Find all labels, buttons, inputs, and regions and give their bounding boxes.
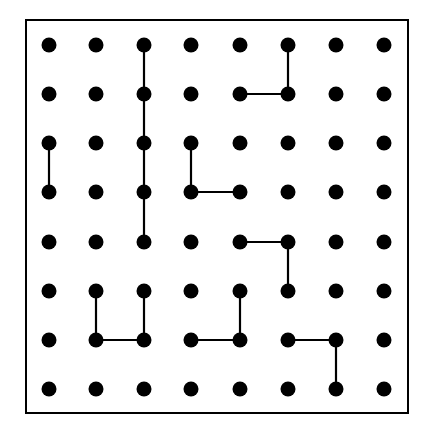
grid-dot-r0-c5 bbox=[281, 38, 296, 53]
grid-dot-r0-c1 bbox=[89, 38, 104, 53]
grid-dot-r7-c2 bbox=[137, 382, 152, 397]
grid-border bbox=[26, 20, 408, 413]
grid-dot-r0-c2 bbox=[137, 38, 152, 53]
grid-dot-r7-c4 bbox=[233, 382, 248, 397]
dot-grid-board bbox=[0, 0, 427, 433]
grid-dot-r5-c1 bbox=[89, 284, 104, 299]
grid-dot-r4-c2 bbox=[137, 235, 152, 250]
grid-dot-r1-c5 bbox=[281, 87, 296, 102]
grid-dot-r5-c0 bbox=[42, 284, 57, 299]
grid-dot-r6-c1 bbox=[89, 333, 104, 348]
grid-dots bbox=[42, 38, 392, 397]
grid-dot-r5-c6 bbox=[329, 284, 344, 299]
grid-dot-r2-c7 bbox=[377, 136, 392, 151]
grid-dot-r7-c0 bbox=[42, 382, 57, 397]
grid-dot-r4-c4 bbox=[233, 235, 248, 250]
grid-dot-r4-c0 bbox=[42, 235, 57, 250]
grid-dot-r5-c3 bbox=[184, 284, 199, 299]
grid-dot-r2-c0 bbox=[42, 136, 57, 151]
grid-dot-r3-c4 bbox=[233, 185, 248, 200]
grid-dot-r6-c5 bbox=[281, 333, 296, 348]
grid-dot-r7-c3 bbox=[184, 382, 199, 397]
grid-dot-r1-c3 bbox=[184, 87, 199, 102]
grid-dot-r1-c6 bbox=[329, 87, 344, 102]
grid-dot-r2-c1 bbox=[89, 136, 104, 151]
grid-dot-r7-c1 bbox=[89, 382, 104, 397]
grid-dot-r0-c6 bbox=[329, 38, 344, 53]
grid-dot-r6-c7 bbox=[377, 333, 392, 348]
grid-dot-r2-c3 bbox=[184, 136, 199, 151]
grid-dot-r3-c0 bbox=[42, 185, 57, 200]
grid-dot-r3-c3 bbox=[184, 185, 199, 200]
grid-dot-r3-c2 bbox=[137, 185, 152, 200]
grid-dot-r5-c4 bbox=[233, 284, 248, 299]
grid-dot-r7-c6 bbox=[329, 382, 344, 397]
grid-dot-r7-c7 bbox=[377, 382, 392, 397]
grid-dot-r3-c6 bbox=[329, 185, 344, 200]
grid-dot-r1-c4 bbox=[233, 87, 248, 102]
grid-dot-r5-c5 bbox=[281, 284, 296, 299]
grid-dot-r5-c7 bbox=[377, 284, 392, 299]
grid-dot-r7-c5 bbox=[281, 382, 296, 397]
grid-dot-r6-c0 bbox=[42, 333, 57, 348]
grid-dot-r4-c3 bbox=[184, 235, 199, 250]
grid-dot-r3-c7 bbox=[377, 185, 392, 200]
grid-dot-r4-c5 bbox=[281, 235, 296, 250]
grid-dot-r1-c0 bbox=[42, 87, 57, 102]
grid-dot-r6-c4 bbox=[233, 333, 248, 348]
grid-dot-r2-c2 bbox=[137, 136, 152, 151]
grid-dot-r3-c5 bbox=[281, 185, 296, 200]
grid-dot-r4-c6 bbox=[329, 235, 344, 250]
grid-dot-r6-c6 bbox=[329, 333, 344, 348]
grid-dot-r2-c6 bbox=[329, 136, 344, 151]
grid-dot-r0-c0 bbox=[42, 38, 57, 53]
grid-dot-r2-c4 bbox=[233, 136, 248, 151]
grid-dot-r5-c2 bbox=[137, 284, 152, 299]
grid-dot-r0-c7 bbox=[377, 38, 392, 53]
grid-dot-r4-c7 bbox=[377, 235, 392, 250]
grid-dot-r1-c7 bbox=[377, 87, 392, 102]
grid-dot-r6-c2 bbox=[137, 333, 152, 348]
grid-dot-r1-c1 bbox=[89, 87, 104, 102]
grid-dot-r0-c4 bbox=[233, 38, 248, 53]
grid-dot-r1-c2 bbox=[137, 87, 152, 102]
grid-dot-r0-c3 bbox=[184, 38, 199, 53]
grid-dot-r4-c1 bbox=[89, 235, 104, 250]
grid-dot-r2-c5 bbox=[281, 136, 296, 151]
grid-dot-r6-c3 bbox=[184, 333, 199, 348]
dot-grid-canvas bbox=[0, 0, 427, 433]
grid-dot-r3-c1 bbox=[89, 185, 104, 200]
